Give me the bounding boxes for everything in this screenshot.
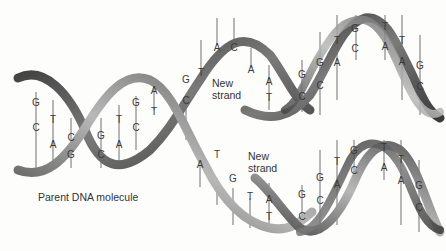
base-label: T — [332, 157, 342, 167]
base-label: G — [131, 98, 141, 108]
base-label: A — [114, 140, 124, 150]
base-label: T — [380, 22, 390, 32]
base-label: G — [414, 181, 424, 191]
base-label: G — [31, 98, 41, 108]
base-label: C — [414, 203, 424, 213]
base-label: C — [315, 196, 325, 206]
dna-ribbons — [0, 0, 446, 251]
base-label: C — [96, 150, 106, 160]
base-label: A — [246, 65, 256, 75]
dna-replication-diagram: G C T A C G G C T A G C A T G C T A C A … — [0, 0, 446, 251]
base-label: G — [415, 61, 425, 71]
base-label: T — [332, 36, 342, 46]
base-label: T — [264, 93, 274, 103]
base-label: A — [379, 163, 389, 173]
base-label: C — [181, 96, 191, 106]
base-label: A — [396, 176, 406, 186]
base-label: C — [349, 166, 359, 176]
base-label: C — [350, 44, 360, 54]
parent-strand-1 — [18, 41, 310, 164]
base-label: C — [315, 81, 325, 91]
base-label: A — [332, 58, 342, 68]
base-label: T — [397, 36, 407, 46]
base-label: T — [48, 115, 58, 125]
base-label: G — [181, 75, 191, 85]
base-label: G — [96, 131, 106, 141]
base-label: T — [379, 143, 389, 153]
base-label: G — [66, 150, 76, 160]
base-label: A — [212, 43, 222, 53]
base-label: C — [297, 212, 307, 222]
base-label: T — [196, 68, 206, 78]
base-label: A — [48, 140, 58, 150]
base-label: A — [149, 86, 159, 96]
base-label: A — [264, 77, 274, 87]
base-label: C — [131, 123, 141, 133]
base-label: G — [297, 190, 307, 200]
base-label: C — [415, 82, 425, 92]
base-label: C — [66, 133, 76, 143]
base-label: T — [212, 150, 222, 160]
base-label: A — [397, 57, 407, 67]
parent-dna-label: Parent DNA molecule — [38, 191, 138, 203]
base-label: A — [332, 180, 342, 190]
base-label: G — [315, 58, 325, 68]
base-label: C — [297, 92, 307, 102]
base-label: G — [315, 173, 325, 183]
base-label: T — [396, 155, 406, 165]
new-strand-label-bottom: New strand — [248, 150, 277, 174]
base-label: G — [297, 70, 307, 80]
base-label: A — [264, 195, 274, 205]
base-label: G — [228, 174, 238, 184]
base-label: A — [380, 42, 390, 52]
base-label: C — [31, 123, 41, 133]
base-label: T — [114, 115, 124, 125]
base-label: G — [349, 146, 359, 156]
base-label: A — [195, 160, 205, 170]
base-label: T — [245, 192, 255, 202]
base-label: T — [264, 212, 274, 222]
base-label: T — [149, 107, 159, 117]
new-strand-label-top: New strand — [212, 77, 241, 101]
base-label: G — [350, 24, 360, 34]
base-label: C — [229, 43, 239, 53]
